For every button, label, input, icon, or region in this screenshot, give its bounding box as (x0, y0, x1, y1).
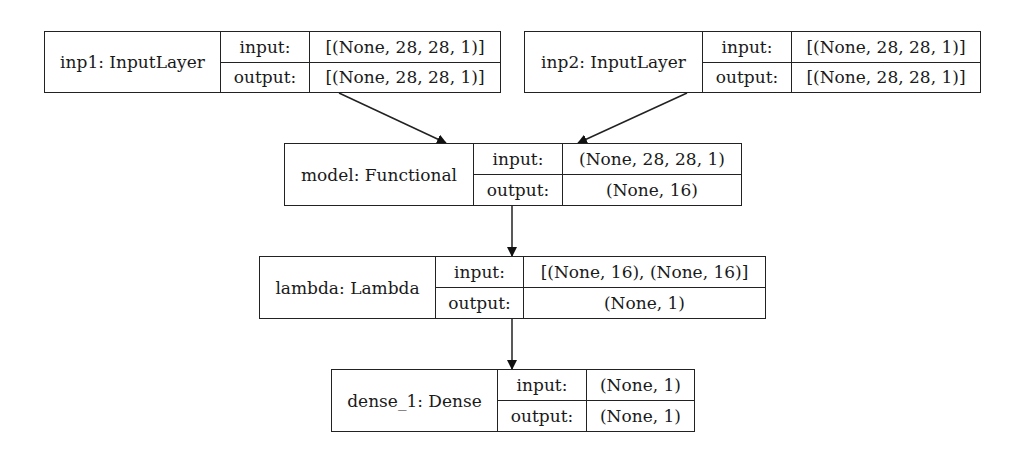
io-labels: input: output: (474, 144, 563, 205)
output-shape: (None, 1) (587, 401, 694, 431)
layer-name: lambda: Lambda (260, 257, 436, 318)
layer-name: dense_1: Dense (332, 370, 498, 431)
input-shape: (None, 28, 28, 1) (563, 144, 741, 175)
output-label: output: (703, 63, 791, 93)
input-label: input: (498, 370, 586, 401)
layer-node-lambda[interactable]: lambda: Lambda input: output: [(None, 16… (259, 256, 766, 319)
input-shape: [(None, 28, 28, 1)] (310, 32, 500, 63)
output-label: output: (498, 401, 586, 431)
io-labels: input: output: (436, 257, 524, 318)
input-label: input: (436, 257, 523, 288)
layer-node-model[interactable]: model: Functional input: output: (None, … (284, 143, 742, 206)
edge-inp2-to-model-arrow-icon (578, 93, 687, 143)
output-shape: [(None, 28, 28, 1)] (792, 63, 980, 93)
output-label: output: (436, 288, 523, 318)
input-label: input: (474, 144, 562, 175)
input-label: input: (221, 32, 309, 63)
input-shape: [(None, 16), (None, 16)] (524, 257, 765, 288)
layer-name: inp2: InputLayer (525, 32, 703, 92)
layer-name: inp1: InputLayer (45, 32, 221, 92)
output-label: output: (474, 175, 562, 205)
layer-node-inp1[interactable]: inp1: InputLayer input: output: [(None, … (44, 31, 501, 93)
io-values: [(None, 16), (None, 16)] (None, 1) (524, 257, 765, 318)
output-shape: [(None, 28, 28, 1)] (310, 63, 500, 93)
io-values: [(None, 28, 28, 1)] [(None, 28, 28, 1)] (310, 32, 500, 92)
io-values: [(None, 28, 28, 1)] [(None, 28, 28, 1)] (792, 32, 980, 92)
layer-node-inp2[interactable]: inp2: InputLayer input: output: [(None, … (524, 31, 981, 93)
input-label: input: (703, 32, 791, 63)
output-shape: (None, 1) (524, 288, 765, 318)
io-labels: input: output: (703, 32, 792, 92)
layer-name: model: Functional (285, 144, 474, 205)
edge-inp1-to-model-arrow-icon (339, 93, 446, 143)
output-shape: (None, 16) (563, 175, 741, 205)
io-values: (None, 1) (None, 1) (587, 370, 694, 431)
input-shape: [(None, 28, 28, 1)] (792, 32, 980, 63)
io-labels: input: output: (498, 370, 587, 431)
input-shape: (None, 1) (587, 370, 694, 401)
io-values: (None, 28, 28, 1) (None, 16) (563, 144, 741, 205)
layer-node-dense_1[interactable]: dense_1: Dense input: output: (None, 1) … (331, 369, 695, 432)
io-labels: input: output: (221, 32, 310, 92)
output-label: output: (221, 63, 309, 93)
